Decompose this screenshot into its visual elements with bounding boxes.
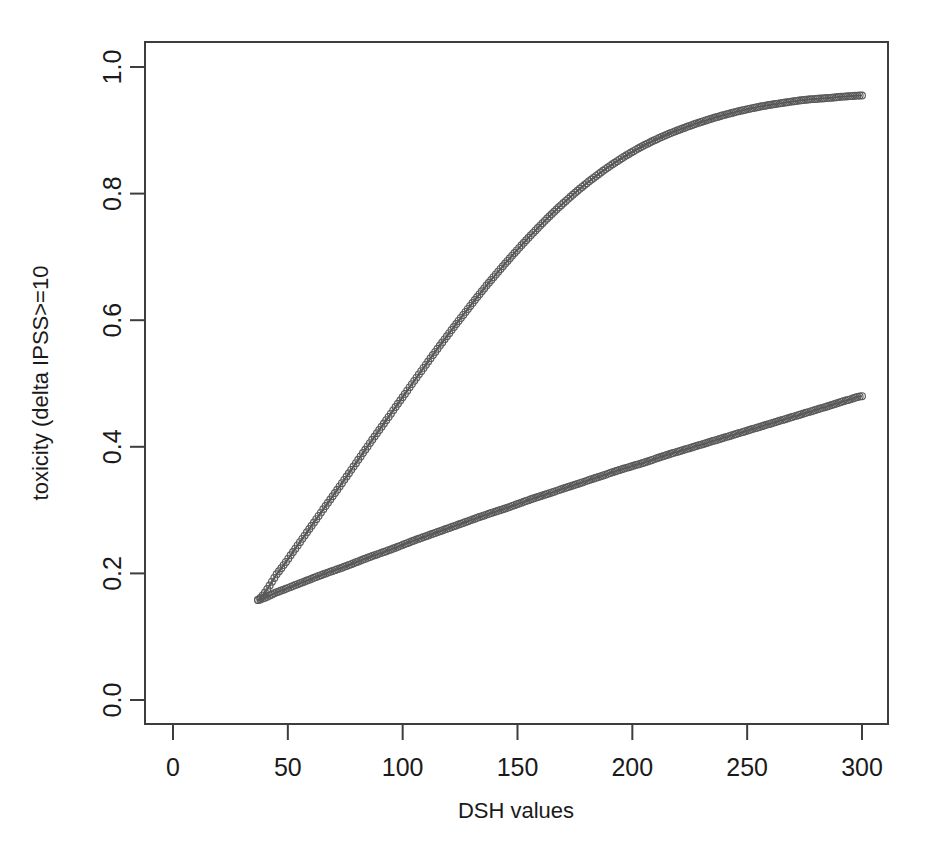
y-tick-label: 0.8 — [98, 176, 126, 211]
chart-figure: 0.00.20.40.60.81.0 050100150200250300 DS… — [0, 0, 930, 866]
y-tick-label: 0.6 — [98, 303, 126, 338]
x-tick-label: 50 — [274, 753, 302, 781]
x-tick-label: 300 — [841, 753, 883, 781]
x-tick-label: 100 — [382, 753, 424, 781]
y-axis-title: toxicity (delta IPSS>=10 — [28, 266, 53, 501]
plot-canvas: 0.00.20.40.60.81.0 050100150200250300 DS… — [0, 0, 930, 866]
x-tick-label: 150 — [497, 753, 539, 781]
x-tick-label: 200 — [611, 753, 653, 781]
y-tick-label: 1.0 — [98, 50, 126, 85]
x-axis-title: DSH values — [458, 798, 574, 823]
y-tick-label: 0.0 — [98, 683, 126, 718]
figure-background — [0, 0, 930, 866]
y-tick-label: 0.2 — [98, 556, 126, 591]
y-tick-label: 0.4 — [98, 429, 126, 464]
x-tick-label: 250 — [726, 753, 768, 781]
x-tick-label: 0 — [166, 753, 180, 781]
